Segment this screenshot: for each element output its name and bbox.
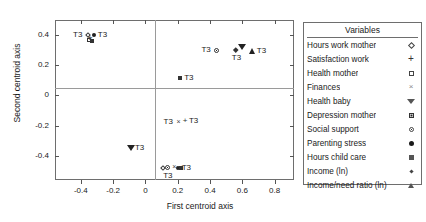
legend-item-label: Parenting stress	[307, 139, 366, 148]
data-point	[165, 165, 170, 170]
legend-marker-triangle-up-icon	[405, 183, 417, 188]
x-tick-top	[113, 20, 114, 24]
data-point: ×	[176, 119, 182, 125]
y-tick-right	[290, 35, 294, 36]
legend-marker-filled-square-icon	[405, 155, 417, 160]
legend-glyph	[409, 141, 414, 146]
x-tick-label: 0.2	[163, 186, 193, 195]
legend-marker-cross-icon: ×	[405, 83, 417, 91]
x-tick-label: 0.6	[227, 186, 257, 195]
legend-glyph	[409, 71, 414, 76]
legend-glyph	[409, 113, 414, 118]
legend-item[interactable]: Income/need ratio (ln)	[304, 178, 421, 192]
legend-glyph: +	[408, 55, 414, 63]
x-tick-top	[145, 20, 146, 24]
x-tick-top	[242, 20, 243, 24]
legend-marker-open-diamond-icon	[405, 43, 417, 48]
legend-item-label: Hours work mother	[307, 41, 376, 50]
legend-marker-triangle-down-icon	[405, 99, 417, 104]
data-point-label: T3	[184, 73, 193, 82]
legend-glyph	[408, 183, 414, 188]
data-point-label: T3	[189, 116, 198, 125]
legend-glyph	[407, 99, 415, 104]
x-tick-label: -0.4	[66, 186, 96, 195]
legend-glyph: ×	[409, 83, 414, 91]
x-tick	[178, 180, 179, 184]
x-tick-top	[178, 20, 179, 24]
x-tick	[242, 180, 243, 184]
legend-marker-circle-dot-icon	[405, 127, 417, 132]
legend-item[interactable]: Health mother	[304, 66, 421, 80]
zero-line-vertical	[155, 20, 156, 180]
y-tick-label: -0.2	[23, 121, 49, 130]
x-tick-label: -0.2	[98, 186, 128, 195]
data-point: +	[182, 118, 188, 124]
x-tick	[113, 180, 114, 184]
data-point	[214, 48, 219, 53]
legend-item-label: Income/need ratio (ln)	[307, 181, 387, 190]
legend-glyph	[407, 41, 414, 48]
legend-item-label: Health mother	[307, 69, 358, 78]
y-tick	[55, 126, 59, 127]
legend-glyph	[409, 155, 414, 160]
x-tick-top	[210, 20, 211, 24]
data-point	[179, 166, 183, 170]
data-point-label: T3	[163, 171, 172, 180]
legend-glyph	[409, 169, 413, 173]
y-tick-label: -0.4	[23, 151, 49, 160]
y-tick-label: 0.4	[23, 30, 49, 39]
y-tick-right	[290, 126, 294, 127]
legend-item[interactable]: Hours child care	[304, 150, 421, 164]
legend-marker-small-diamond-icon	[405, 170, 417, 173]
data-point	[178, 76, 182, 80]
x-axis-title: First centroid axis	[120, 201, 280, 211]
y-tick-right	[290, 95, 294, 96]
x-tick	[81, 180, 82, 184]
x-tick	[145, 180, 146, 184]
legend-item[interactable]: Finances×	[304, 80, 421, 94]
legend-item-label: Depression mother	[307, 111, 376, 120]
x-tick-label: 0	[130, 186, 160, 195]
data-point-label: T3	[201, 45, 210, 54]
legend-title: Variables	[304, 23, 421, 37]
x-tick	[210, 180, 211, 184]
legend-item-label: Finances	[307, 83, 340, 92]
y-tick	[55, 156, 59, 157]
legend-box: Variables Hours work motherSatisfaction …	[303, 22, 422, 185]
data-point	[90, 39, 94, 43]
y-axis-title: Second centroid axis	[12, 18, 22, 148]
data-point	[127, 145, 135, 151]
data-point-label: T3	[73, 30, 82, 39]
data-point	[238, 44, 246, 50]
legend-item[interactable]: Satisfaction work+	[304, 52, 421, 66]
zero-line-horizontal	[55, 88, 294, 89]
data-point	[249, 48, 255, 54]
y-tick	[55, 65, 59, 66]
legend-item[interactable]: Depression mother	[304, 108, 421, 122]
data-point-label: T3	[232, 53, 241, 62]
legend-item[interactable]: Hours work mother	[304, 38, 421, 52]
data-point-label: T3	[257, 46, 266, 55]
legend-item[interactable]: Social support	[304, 122, 421, 136]
legend-item-label: Satisfaction work	[307, 55, 369, 64]
legend-item[interactable]: Parenting stress	[304, 136, 421, 150]
legend-marker-square-dot-icon	[405, 113, 417, 118]
data-point-label: T3	[135, 143, 144, 152]
legend-marker-filled-circle-icon	[405, 141, 417, 146]
scatter-plot-figure: -0.4-0.200.20.40.60.8 0.40.20-0.2-0.4 T3…	[0, 0, 426, 222]
y-tick	[55, 95, 59, 96]
x-tick-label: 0.4	[195, 186, 225, 195]
legend-item[interactable]: Health baby	[304, 94, 421, 108]
legend-item-label: Income (ln)	[307, 167, 348, 176]
data-point-label: T3	[98, 30, 107, 39]
legend-item[interactable]: Income (ln)	[304, 164, 421, 178]
y-tick	[55, 35, 59, 36]
y-tick-label: 0	[23, 90, 49, 99]
legend-item-label: Social support	[307, 125, 359, 134]
legend-item-label: Hours child care	[307, 153, 366, 162]
legend-items: Hours work motherSatisfaction work+Healt…	[304, 38, 421, 192]
y-tick-right	[290, 156, 294, 157]
legend-marker-open-square-icon	[405, 71, 417, 76]
y-tick-label: 0.2	[23, 60, 49, 69]
x-tick-top	[81, 20, 82, 24]
